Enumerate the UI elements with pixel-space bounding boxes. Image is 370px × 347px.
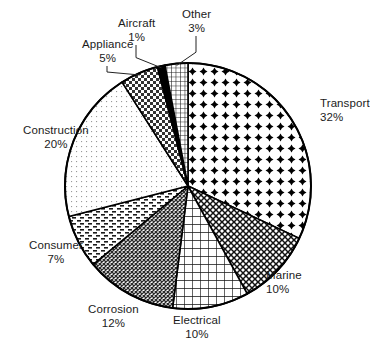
leader-line-appliance (107, 66, 140, 75)
pie-label-name: Aircraft (118, 17, 155, 31)
pie-label-value: 10% (266, 283, 302, 297)
pie-label-name: Consumer (29, 239, 83, 253)
pie-label-value: 1% (118, 31, 155, 45)
pie-label-transport: Transport32% (320, 97, 370, 124)
pie-label-construction: Construction20% (23, 124, 89, 151)
pie-label-electrical: Electrical10% (173, 314, 221, 341)
pie-label-name: Other (182, 8, 211, 22)
pie-label-name: Marine (266, 269, 302, 283)
pie-label-corrosion: Corrosion12% (88, 303, 139, 330)
pie-label-marine: Marine10% (266, 269, 302, 296)
pie-label-value: 10% (173, 328, 221, 342)
pie-label-other: Other3% (182, 8, 211, 35)
pie-label-name: Corrosion (88, 303, 139, 317)
pie-label-aircraft: Aircraft1% (118, 17, 155, 44)
pie-label-value: 7% (29, 253, 83, 267)
pie-label-value: 20% (23, 138, 89, 152)
pie-label-name: Construction (23, 124, 89, 138)
pie-label-consumer: Consumer7% (29, 239, 83, 266)
pie-label-value: 12% (88, 317, 139, 331)
pie-label-name: Transport (320, 97, 370, 111)
pie-label-value: 32% (320, 111, 370, 125)
pie-label-value: 3% (182, 22, 211, 36)
pie-label-value: 5% (82, 52, 133, 66)
pie-label-name: Electrical (173, 314, 221, 328)
leader-line-other (177, 36, 196, 66)
leader-line-aircraft (136, 45, 162, 68)
